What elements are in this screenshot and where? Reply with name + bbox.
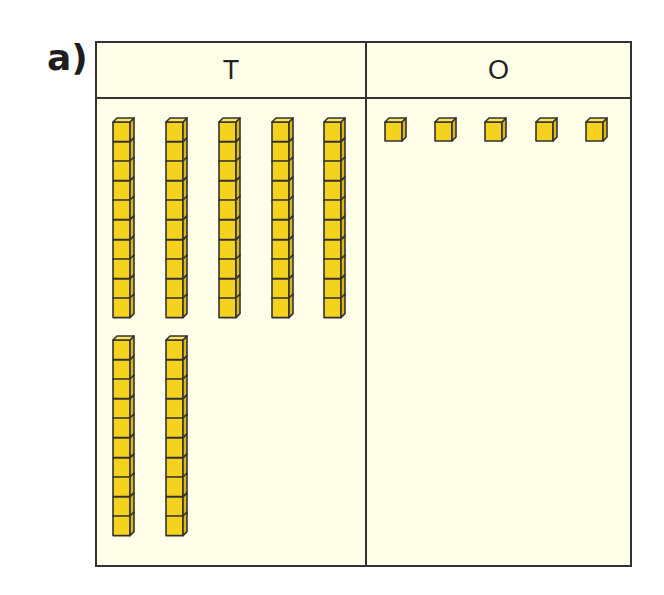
unit-cube	[218, 293, 241, 319]
unit-cube	[165, 511, 188, 537]
header-ones: O	[367, 43, 630, 97]
unit-cube	[112, 511, 135, 537]
header-tens: T	[97, 43, 365, 97]
unit-cube	[271, 293, 294, 319]
column-divider	[365, 43, 367, 565]
unit-cube	[165, 293, 188, 319]
ones-cube	[585, 117, 608, 142]
unit-cube	[112, 293, 135, 319]
unit-cube	[323, 293, 346, 319]
ones-cube	[434, 117, 457, 142]
ones-cube	[484, 117, 507, 142]
part-label: a)	[47, 40, 88, 76]
ones-cube	[535, 117, 558, 142]
ones-cube	[384, 117, 407, 142]
